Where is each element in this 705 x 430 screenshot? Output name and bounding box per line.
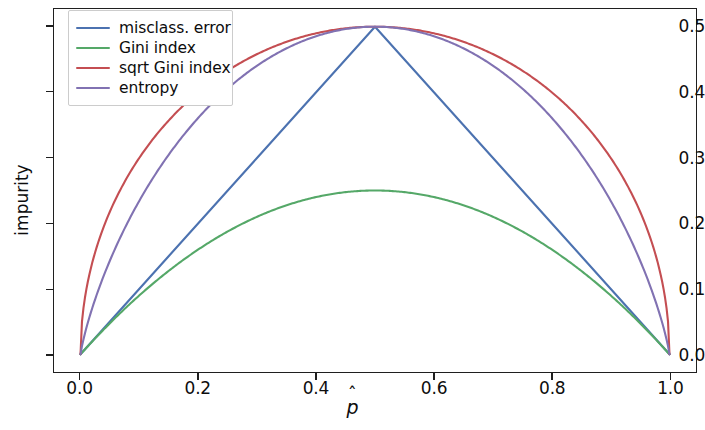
legend-color-swatch <box>76 27 110 30</box>
x-axis-label-accent: ˆ <box>348 383 357 404</box>
y-tick-mark <box>46 91 53 93</box>
legend-color-swatch <box>76 87 110 90</box>
y-tick-mark <box>46 289 53 291</box>
series-line <box>81 191 670 355</box>
chart-figure: 0.00.10.20.30.40.5 0.00.20.40.60.81.0 im… <box>0 0 705 430</box>
y-tick-mark <box>46 354 53 356</box>
legend-item-label: Gini index <box>119 39 196 57</box>
legend-item-label: entropy <box>119 79 178 97</box>
y-tick-mark <box>46 25 53 27</box>
y-axis-label: impurity <box>12 140 32 260</box>
y-tick-label: 0.5 <box>663 16 705 36</box>
x-tick-label: 0.2 <box>168 378 228 398</box>
legend-item-label: misclass. error <box>119 19 231 37</box>
x-tick-label: 0.0 <box>50 378 110 398</box>
legend-color-swatch <box>76 67 110 70</box>
y-tick-mark <box>46 157 53 159</box>
legend-color-swatch <box>76 47 110 50</box>
y-tick-label: 0.4 <box>663 82 705 102</box>
y-tick-label: 0.1 <box>663 279 705 299</box>
y-tick-label: 0.2 <box>663 213 705 233</box>
y-tick-label: 0.0 <box>663 345 705 365</box>
chart-legend: misclass. errorGini indexsqrt Gini index… <box>68 10 233 106</box>
x-tick-label: 0.8 <box>522 378 582 398</box>
x-tick-label: 0.6 <box>404 378 464 398</box>
legend-item-label: sqrt Gini index <box>119 59 231 77</box>
x-tick-label: 1.0 <box>640 378 700 398</box>
y-tick-label: 0.3 <box>663 148 705 168</box>
x-axis-label-variable: ˆp <box>346 396 358 418</box>
legend-item: entropy <box>76 78 224 98</box>
x-axis-label: ˆp <box>0 396 705 418</box>
legend-item: misclass. error <box>76 18 224 38</box>
x-tick-label: 0.4 <box>286 378 346 398</box>
legend-item: Gini index <box>76 38 224 58</box>
legend-item: sqrt Gini index <box>76 58 224 78</box>
y-tick-mark <box>46 223 53 225</box>
